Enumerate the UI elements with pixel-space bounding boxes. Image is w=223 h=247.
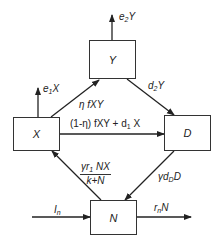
node-n: N [90,200,137,235]
node-d-label: D [184,127,192,139]
label-x-to-y: η fXY [79,100,103,110]
label-y-to-d: d2Y [148,81,164,92]
node-d: D [164,115,211,151]
node-n-label: N [110,212,118,224]
node-x: X [13,117,60,151]
node-y: Y [89,40,136,79]
label-n-to-x: γr1 NX k+N [80,161,111,187]
label-e2Y: e2Y [119,12,135,23]
label-in-to-n: In [54,205,61,216]
label-d-to-n: γdDD [158,172,181,183]
node-y-label: Y [109,54,116,66]
node-x-label: X [33,128,40,140]
label-x-to-d: (1-η) fXY + d1 X [70,119,140,130]
label-e1X: e1X [43,84,59,95]
label-n-out: rnN [154,203,168,214]
